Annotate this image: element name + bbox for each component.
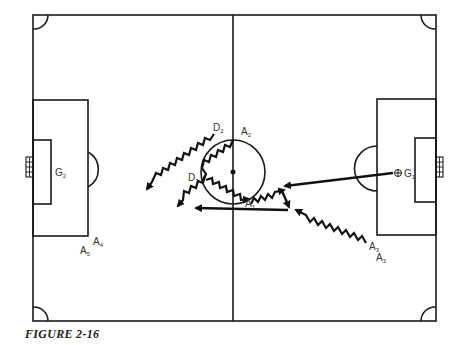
label-d2: D2 — [213, 122, 224, 134]
right-goal-area — [415, 138, 436, 202]
label-a5: A5 — [80, 245, 91, 257]
right-goal-net-icon — [436, 157, 443, 177]
right-penalty-arc — [355, 146, 377, 191]
label-d1: D1 — [188, 172, 199, 184]
field-boundary — [33, 15, 436, 321]
label-g1: G1 — [404, 168, 416, 180]
corner-arc-top-left — [33, 15, 48, 29]
label-g2: G2 — [55, 167, 67, 179]
corner-arc-bottom-left — [33, 307, 48, 321]
left-goal-net-icon — [26, 157, 33, 177]
short-arrow-down — [282, 191, 289, 207]
dribble-arrow-a2-run — [202, 140, 233, 180]
figure-caption: FIGURE 2-16 — [25, 327, 99, 342]
left-goal-area — [33, 140, 51, 204]
corner-arc-bottom-right — [421, 307, 436, 321]
dribble-arrow-a1-to-right — [251, 190, 284, 204]
soccer-field-diagram: D2 A2 D1 A1 G1 G2 A4 A5 A3 A3 — [0, 0, 462, 345]
goalkeeper-g1-marker-icon — [395, 170, 402, 177]
center-spot — [231, 170, 236, 175]
corner-arc-top-right — [421, 15, 436, 29]
label-a2: A2 — [241, 126, 252, 138]
label-a4: A4 — [93, 236, 104, 248]
pass-arrow-to-left — [196, 208, 288, 210]
right-penalty-area — [377, 99, 436, 235]
dribble-arrow-a3-run — [296, 210, 366, 243]
label-a3-lower: A3 — [376, 252, 387, 264]
left-penalty-arc — [88, 152, 98, 187]
